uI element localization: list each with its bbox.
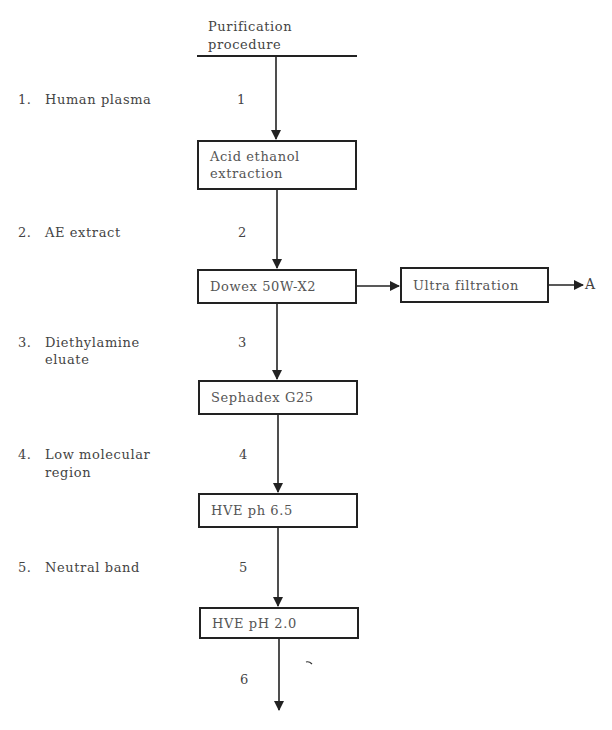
header-line-2: procedure bbox=[208, 37, 281, 52]
stage-5-label: Neutral band bbox=[45, 560, 140, 575]
stage-3-label-line-1: Diethylamine bbox=[45, 335, 140, 350]
step-4-label: HVE ph 6.5 bbox=[211, 502, 356, 519]
step-1-line-2: extraction bbox=[210, 165, 355, 182]
stage-2-label: AE extract bbox=[45, 225, 121, 240]
step-2-label: Dowex 50W-X2 bbox=[210, 278, 355, 295]
stage-5-number: 5. bbox=[18, 560, 32, 575]
stage-2-number: 2. bbox=[18, 225, 32, 240]
stage-4-label-line-1: Low molecular bbox=[45, 447, 150, 462]
side-step-label: Ultra filtration bbox=[413, 277, 547, 294]
stage-3-number: 3. bbox=[18, 335, 32, 350]
flow-label-3: 3 bbox=[238, 335, 247, 350]
flow-label-6: 6 bbox=[240, 672, 249, 687]
stage-1-number: 1. bbox=[18, 92, 32, 107]
stage-3-label-line-2: eluate bbox=[45, 352, 90, 367]
flow-label-5: 5 bbox=[239, 560, 248, 575]
step-3-label: Sephadex G25 bbox=[211, 389, 356, 406]
step-hve-ph-2-0: HVE pH 2.0 bbox=[199, 607, 359, 639]
step-1-line-1: Acid ethanol bbox=[210, 148, 355, 165]
step-acid-ethanol-extraction: Acid ethanol extraction bbox=[197, 140, 357, 190]
step-sephadex-g25: Sephadex G25 bbox=[198, 380, 358, 415]
header-line-1: Purification bbox=[208, 19, 292, 34]
flow-label-2: 2 bbox=[238, 225, 247, 240]
stray-mark bbox=[306, 662, 312, 664]
step-5-label: HVE pH 2.0 bbox=[212, 615, 357, 632]
stage-1-label: Human plasma bbox=[45, 92, 151, 107]
step-ultra-filtration: Ultra filtration bbox=[400, 267, 549, 303]
stage-4-number: 4. bbox=[18, 447, 32, 462]
output-a-label: A bbox=[585, 277, 596, 292]
step-dowex-50w-x2: Dowex 50W-X2 bbox=[197, 269, 357, 304]
step-hve-ph-6-5: HVE ph 6.5 bbox=[198, 493, 358, 528]
stage-4-label-line-2: region bbox=[45, 465, 91, 480]
flow-label-1: 1 bbox=[237, 92, 246, 107]
flow-label-4: 4 bbox=[239, 447, 248, 462]
